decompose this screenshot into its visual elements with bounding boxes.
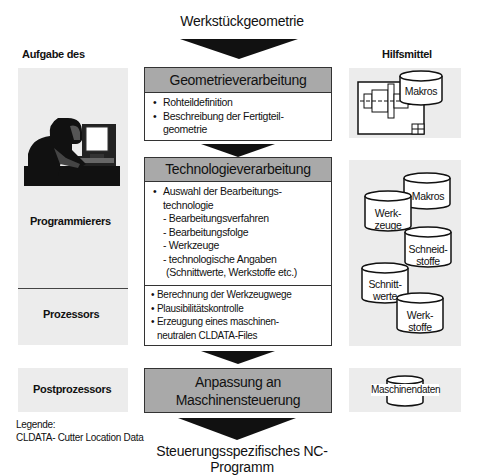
role-panel-programmer: [18, 68, 128, 345]
legend: Legende: CLDATA- Cutter Location Data: [16, 418, 143, 444]
processor-item: Erzeugung eines maschinen-: [151, 315, 325, 329]
flow-arrow-4: [178, 418, 296, 440]
stage-postprocessing-title-2: Maschinensteuerung: [145, 391, 331, 409]
processor-item: Berechnung der Werkzeugwege: [151, 288, 325, 302]
stage-geometry-title: Geometrieverarbeitung: [145, 68, 331, 93]
role-processor: Prozessors: [43, 308, 99, 320]
maschinendaten-label: Maschinendaten: [371, 384, 439, 396]
right-heading: Hilfsmittel: [382, 48, 432, 60]
processor-section: Berechnung der Werkzeugwege Plausibilitä…: [145, 285, 331, 344]
input-title: Werkstückgeometrie: [142, 13, 342, 29]
tool-label: Schneid- stoffe: [405, 243, 451, 267]
geometry-item-cont: geometrie: [153, 123, 323, 137]
flow-arrow-1: [180, 39, 298, 59]
left-heading: Aufgabe des: [22, 48, 85, 60]
role-postprocessor: Postprozessors: [33, 383, 111, 395]
output-title: Steuerungsspezifisches NC-Programm: [132, 443, 352, 475]
technology-subitem: - Werkzeuge: [153, 239, 323, 253]
stage-technology-body: Auswahl der Bearbeitungs- technologie - …: [145, 182, 331, 283]
role-programmer: Programmierers: [30, 215, 111, 227]
flow-arrow-3: [201, 351, 275, 364]
geometry-item: Beschreibung der Fertigteil-: [153, 110, 323, 124]
stage-geometry-body: Rohteildefinition Beschreibung der Ferti…: [145, 93, 331, 140]
technology-subitem: (Schnittwerte, Werkstoffe etc.): [153, 266, 323, 280]
role-divider: [18, 288, 128, 289]
legend-heading: Legende:: [16, 418, 143, 431]
programmer-illustration-icon: [24, 118, 124, 188]
legend-entry: CLDATA- Cutter Location Data: [16, 431, 143, 444]
technology-subitem: - Bearbeitungsverfahren: [153, 212, 323, 226]
tool-label: Werk- stoffe: [397, 309, 443, 333]
technology-subitem: - Bearbeitungsfolge: [153, 226, 323, 240]
technology-item: Auswahl der Bearbeitungs-: [153, 185, 323, 199]
processor-item-cont: neutralen CLDATA-Files: [151, 329, 325, 343]
flow-arrow-2: [201, 144, 275, 157]
technology-subitem: - technologische Angaben: [153, 253, 323, 267]
makros-label: Makros: [398, 85, 444, 97]
geometry-item: Rohteildefinition: [153, 96, 323, 110]
stage-technology-title: Technologieverarbeitung: [145, 158, 331, 182]
technology-item-cont: technologie: [153, 199, 323, 213]
processor-item: Plausibilitätskontrolle: [151, 302, 325, 316]
stage-technology: Technologieverarbeitung Auswahl der Bear…: [144, 157, 332, 346]
stage-postprocessing: Anpassung an Maschinensteuerung: [144, 368, 332, 413]
stage-postprocessing-title-1: Anpassung an: [145, 373, 331, 391]
stage-geometry: Geometrieverarbeitung Rohteildefinition …: [144, 67, 332, 141]
